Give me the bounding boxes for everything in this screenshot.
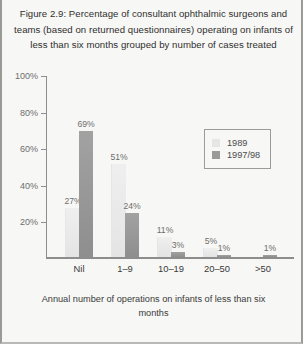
bar-1997-1-9: 24% xyxy=(125,213,139,257)
legend-item-1989: 1989 xyxy=(212,138,260,148)
x-tick-label-nil: Nil xyxy=(74,263,85,274)
x-axis-title: Annual number of operations on infants o… xyxy=(26,292,281,320)
plot-area: 100% 80% 60% 40% 20% 27% 69% Nil 51% 24% xyxy=(46,76,294,259)
y-tick-label-80: 80% xyxy=(0,108,38,118)
bar-1997-gt50: 1% xyxy=(263,255,277,257)
chart-canvas: 100% 80% 60% 40% 20% 27% 69% Nil 51% 24% xyxy=(2,66,303,344)
bar-value-1997-nil: 69% xyxy=(77,119,94,129)
bar-value-1997-20-50: 1% xyxy=(218,243,230,253)
y-tick-label-60: 60% xyxy=(0,144,38,154)
x-axis-line xyxy=(46,257,294,259)
bar-1997-20-50: 1% xyxy=(217,255,231,257)
legend-label-1997-98: 1997/98 xyxy=(227,150,260,160)
bar-value-1989-1-9: 51% xyxy=(110,152,127,162)
y-tick-20 xyxy=(41,222,47,223)
x-tick-label-gt50: >50 xyxy=(255,263,271,274)
bar-1989-10-19: 11% xyxy=(157,237,172,257)
x-tick-label-20-50: 20–50 xyxy=(204,263,230,274)
y-axis-line xyxy=(46,76,47,259)
bar-value-1989-10-19: 11% xyxy=(157,225,174,235)
bar-1989-nil: 27% xyxy=(65,208,80,257)
legend-item-1997-98: 1997/98 xyxy=(212,150,260,160)
y-tick-60 xyxy=(41,149,47,150)
bar-value-1997-1-9: 24% xyxy=(123,201,140,211)
legend-label-1989: 1989 xyxy=(227,138,247,148)
bar-value-1997-10-19: 3% xyxy=(172,240,184,250)
y-tick-80 xyxy=(41,113,47,114)
y-tick-label-20: 20% xyxy=(0,217,38,227)
x-tick-label-1-9: 1–9 xyxy=(117,263,133,274)
bar-value-1989-20-50: 5% xyxy=(205,236,217,246)
y-tick-label-100: 100% xyxy=(0,71,38,81)
figure-title: Figure 2.9: Percentage of consultant oph… xyxy=(2,0,303,57)
legend-swatch-1989-icon xyxy=(212,139,220,147)
bar-value-1997-gt50: 1% xyxy=(264,243,276,253)
x-tick-label-10-19: 10–19 xyxy=(158,263,184,274)
bar-1997-10-19: 3% xyxy=(171,252,185,258)
bar-1989-20-50: 5% xyxy=(203,248,218,257)
y-tick-label-40: 40% xyxy=(0,181,38,191)
y-tick-100 xyxy=(41,76,47,77)
y-tick-40 xyxy=(41,186,47,187)
figure-panel: Figure 2.9: Percentage of consultant oph… xyxy=(0,0,303,344)
legend-swatch-1997-98-icon xyxy=(212,151,220,159)
bar-1997-nil: 69% xyxy=(79,131,93,257)
chart-legend: 1989 1997/98 xyxy=(204,129,271,169)
